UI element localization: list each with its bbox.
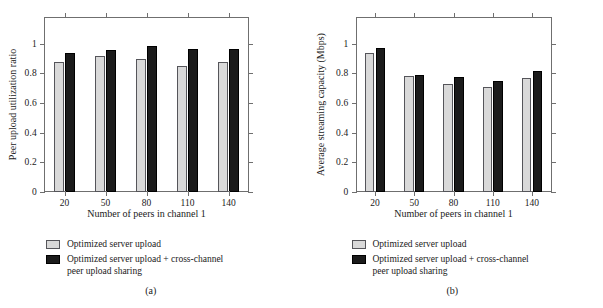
x-tick-label: 80 <box>142 198 152 208</box>
axes-frame-a <box>44 17 249 192</box>
x-tick-mark <box>65 191 66 196</box>
y-tick-mark <box>352 44 357 45</box>
x-tick-label: 80 <box>449 198 459 208</box>
x-tick-mark <box>188 13 189 18</box>
y-tick-mark <box>40 162 45 163</box>
x-tick-mark <box>147 191 148 196</box>
x-tick-label: 50 <box>410 198 420 208</box>
y-axis-title-a: Peer upload utilization ratio <box>6 17 20 192</box>
legend-swatch-black-icon <box>46 255 60 264</box>
y-tick-mark <box>352 73 357 74</box>
x-tick-mark <box>414 191 415 196</box>
y-tick-label: 0.6 <box>25 98 37 108</box>
y-tick-label: 0.8 <box>25 68 37 78</box>
y-axis-title-a-text: Peer upload utilization ratio <box>8 49 19 160</box>
y-tick-label: 0.6 <box>336 98 348 108</box>
x-tick-mark <box>493 191 494 196</box>
y-tick-mark <box>551 133 556 134</box>
x-tick-mark <box>375 191 376 196</box>
legend-item-gray-b: Optimized server upload <box>352 238 529 251</box>
y-tick-mark <box>40 192 45 193</box>
x-tick-mark <box>493 13 494 18</box>
y-tick-label: 0.2 <box>336 157 348 167</box>
plot-area-a: 00.20.40.60.81205080110140 <box>44 17 249 192</box>
y-tick-mark <box>352 162 357 163</box>
y-axis-title-b: Average streaming capacity (Mbps) <box>314 17 328 192</box>
x-tick-mark <box>454 191 455 196</box>
y-tick-mark <box>248 192 253 193</box>
x-tick-mark <box>532 13 533 18</box>
y-tick-mark <box>551 192 556 193</box>
y-tick-mark <box>352 133 357 134</box>
y-tick-label: 0.4 <box>336 128 348 138</box>
y-tick-label: 0.4 <box>25 128 37 138</box>
x-tick-label: 140 <box>221 198 235 208</box>
two-panel-bar-figure: Peer upload utilization ratio 00.20.40.6… <box>0 0 603 308</box>
x-tick-mark <box>414 13 415 18</box>
x-tick-mark <box>147 13 148 18</box>
y-axis-title-b-text: Average streaming capacity (Mbps) <box>315 33 326 176</box>
x-tick-mark <box>454 13 455 18</box>
x-tick-label: 110 <box>486 198 500 208</box>
y-tick-label: 0.2 <box>25 157 37 167</box>
y-tick-mark <box>248 44 253 45</box>
x-tick-label: 140 <box>525 198 539 208</box>
y-tick-label: 1 <box>32 39 37 49</box>
legend-label-gray-a: Optimized server upload <box>67 238 161 251</box>
plot-area-b: 00.20.40.60.81205080110140 <box>356 17 552 192</box>
y-tick-mark <box>248 162 253 163</box>
legend-item-gray-a: Optimized server upload <box>46 238 223 251</box>
x-tick-mark <box>229 13 230 18</box>
x-axis-title-a: Number of peers in channel 1 <box>44 208 249 219</box>
legend-a: Optimized server upload Optimized server… <box>46 238 223 280</box>
y-tick-label: 0.8 <box>336 68 348 78</box>
x-axis-title-b: Number of peers in channel 1 <box>356 208 552 219</box>
legend-item-black-b: Optimized server upload + cross-channel … <box>352 253 529 278</box>
legend-swatch-gray-icon <box>352 240 366 249</box>
legend-swatch-black-icon <box>352 255 366 264</box>
y-tick-mark <box>40 103 45 104</box>
x-tick-label: 110 <box>181 198 195 208</box>
y-tick-mark <box>352 103 357 104</box>
y-tick-mark <box>551 162 556 163</box>
x-tick-label: 20 <box>370 198 380 208</box>
x-tick-mark <box>106 13 107 18</box>
y-tick-mark <box>40 133 45 134</box>
y-tick-mark <box>551 73 556 74</box>
legend-label-gray-b: Optimized server upload <box>373 238 467 251</box>
y-tick-mark <box>248 133 253 134</box>
subfigure-caption-a: (a) <box>0 285 302 296</box>
axes-frame-b <box>356 17 552 192</box>
legend-b: Optimized server upload Optimized server… <box>352 238 529 280</box>
y-tick-mark <box>40 44 45 45</box>
legend-label-black-a: Optimized server upload + cross-channel … <box>67 253 223 278</box>
legend-swatch-gray-icon <box>46 240 60 249</box>
legend-item-black-a: Optimized server upload + cross-channel … <box>46 253 223 278</box>
panel-a: Peer upload utilization ratio 00.20.40.6… <box>0 0 302 308</box>
y-tick-label: 1 <box>344 39 349 49</box>
panel-b: Average streaming capacity (Mbps) 00.20.… <box>302 0 603 308</box>
x-tick-label: 50 <box>101 198 111 208</box>
x-tick-mark <box>65 13 66 18</box>
y-tick-label: 0 <box>344 187 349 197</box>
y-tick-mark <box>40 73 45 74</box>
y-tick-mark <box>551 44 556 45</box>
legend-label-black-b: Optimized server upload + cross-channel … <box>373 253 529 278</box>
x-tick-mark <box>532 191 533 196</box>
y-tick-mark <box>248 103 253 104</box>
x-tick-label: 20 <box>60 198 70 208</box>
x-tick-mark <box>229 191 230 196</box>
y-tick-mark <box>248 73 253 74</box>
x-tick-mark <box>188 191 189 196</box>
y-tick-label: 0 <box>32 187 37 197</box>
y-tick-mark <box>551 103 556 104</box>
x-tick-mark <box>106 191 107 196</box>
y-tick-mark <box>352 192 357 193</box>
x-tick-mark <box>375 13 376 18</box>
subfigure-caption-b: (b) <box>302 285 603 296</box>
